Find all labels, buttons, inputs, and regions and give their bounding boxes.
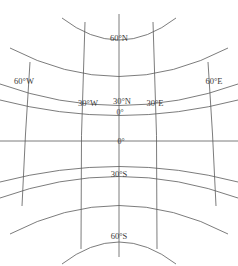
graticule-figure: 60°N 60°W 60°E 30°W 30°N 30°E 0° 0° 30°S… (0, 0, 238, 266)
meridians-group (22, 14, 216, 257)
graticule-svg: 60°N 60°W 60°E 30°W 30°N 30°E 0° 0° 30°S… (0, 0, 238, 266)
label-lon-30e: 30°E (146, 98, 163, 108)
label-lon-30w: 30°W (78, 98, 98, 108)
meridian-30e (153, 22, 157, 249)
label-equator-zero: 0° (117, 137, 124, 146)
label-lat-60n: 60°N (110, 33, 128, 43)
label-lon-60w: 60°W (14, 76, 34, 86)
meridian-30w (81, 22, 85, 249)
label-lat-30n: 30°N (113, 96, 131, 106)
label-central-meridian-zero: 0° (116, 108, 123, 117)
label-lat-30s: 30°S (111, 169, 128, 179)
label-lat-60s: 60°S (111, 231, 128, 241)
label-lon-60e: 60°E (205, 76, 222, 86)
